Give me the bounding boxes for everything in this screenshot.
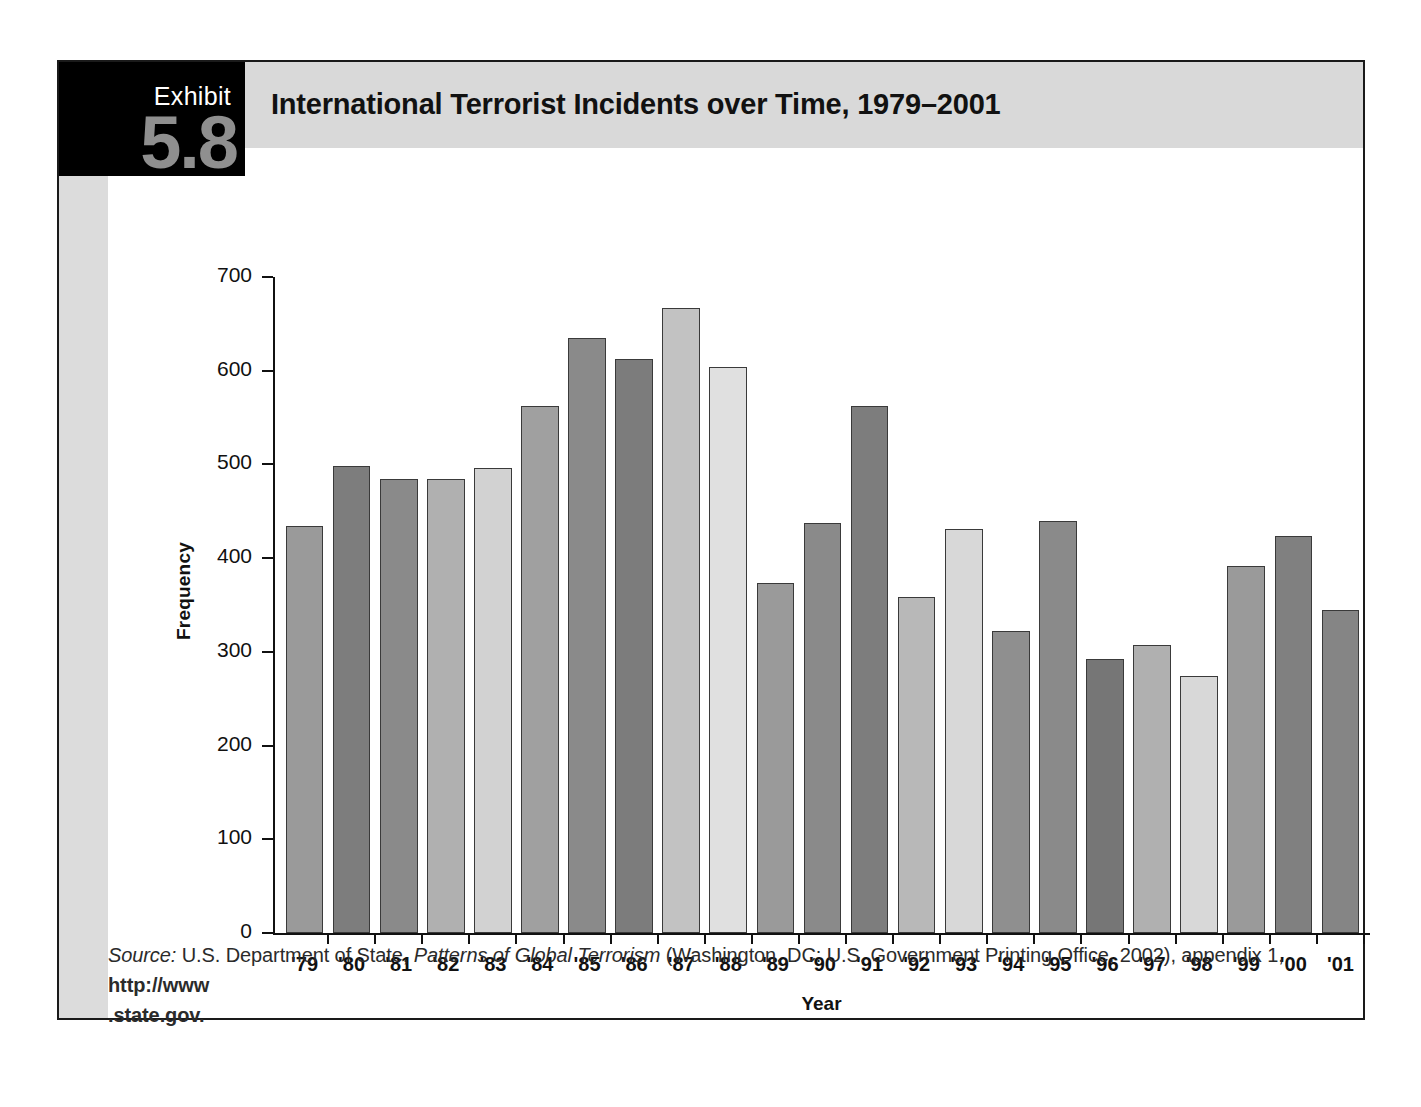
y-tick-label: 500	[162, 450, 252, 474]
y-tick	[262, 463, 273, 465]
bar	[1086, 659, 1124, 933]
bar	[1322, 610, 1360, 933]
y-tick	[262, 276, 273, 278]
bar	[380, 479, 418, 934]
bar	[286, 526, 324, 933]
y-tick	[262, 557, 273, 559]
title-band: International Terrorist Incidents over T…	[245, 62, 1363, 148]
bar	[898, 597, 936, 933]
y-tick	[262, 651, 273, 653]
bar	[992, 631, 1030, 933]
bar	[804, 523, 842, 933]
left-decorative-band	[59, 62, 108, 1018]
source-publisher: U.S. Department of State,	[182, 944, 409, 966]
bar	[662, 308, 700, 933]
bar	[1180, 676, 1218, 933]
bar	[757, 583, 795, 933]
bar	[1275, 536, 1313, 933]
source-prefix: Source:	[108, 944, 176, 966]
source-url-part1: http://www	[108, 974, 209, 996]
exhibit-frame: Exhibit 5.8 International Terrorist Inci…	[57, 60, 1365, 1020]
bar	[474, 468, 512, 933]
y-axis-line	[273, 277, 275, 935]
y-tick-label: 600	[162, 357, 252, 381]
y-tick-label: 400	[162, 544, 252, 568]
source-work-title: Patterns of Global Terrorism	[414, 944, 661, 966]
bar	[333, 466, 371, 933]
y-tick	[262, 838, 273, 840]
y-tick	[262, 932, 273, 934]
bar	[709, 367, 747, 933]
x-tick	[1363, 935, 1365, 944]
exhibit-number: 5.8	[59, 106, 237, 180]
source-note: Source: U.S. Department of State, Patter…	[108, 940, 1343, 1030]
bar	[521, 406, 559, 933]
bar	[615, 359, 653, 933]
page-title: International Terrorist Incidents over T…	[271, 88, 1001, 121]
bar	[945, 529, 983, 933]
bar	[1227, 566, 1265, 933]
bar	[851, 406, 889, 933]
bar	[1039, 521, 1077, 933]
y-tick-label: 300	[162, 638, 252, 662]
x-axis-line	[273, 933, 1370, 935]
exhibit-page: Exhibit 5.8 International Terrorist Inci…	[0, 0, 1421, 1107]
y-tick	[262, 745, 273, 747]
plot-area: 0100200300400500600700 '79'80'81'82'83'8…	[273, 277, 1370, 935]
y-tick	[262, 370, 273, 372]
bar	[1133, 645, 1171, 933]
y-tick-label: 700	[162, 263, 252, 287]
y-tick-label: 100	[162, 825, 252, 849]
y-tick-label: 200	[162, 732, 252, 756]
source-url-part2: .state.gov.	[108, 1004, 204, 1026]
bar	[568, 338, 606, 933]
bar-chart: Frequency 0100200300400500600700 '79'80'…	[108, 176, 1363, 1018]
source-publication: (Washington, DC: U.S. Government Printin…	[666, 944, 1284, 966]
exhibit-tag-block: Exhibit 5.8	[59, 62, 245, 176]
bar	[427, 479, 465, 934]
